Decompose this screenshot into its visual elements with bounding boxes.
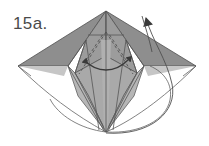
- step-label: 15a.: [13, 14, 48, 34]
- origami-diagram: 15a.: [0, 0, 209, 146]
- face-right-shoulder-notch: [144, 66, 196, 76]
- face-left-shoulder-notch: [18, 66, 68, 76]
